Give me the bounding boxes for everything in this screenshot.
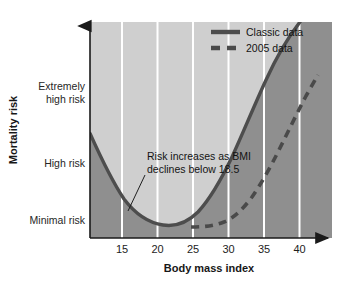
mortality-risk-bmi-chart: Risk increases as BMI declines below 18.… <box>0 0 339 284</box>
legend-label-2005-data: 2005 data <box>246 42 293 54</box>
y-axis-title: Mortality risk <box>7 95 19 164</box>
y-tick-label-extremely-high-risk-line2: high risk <box>46 93 86 105</box>
y-tick-label-high-risk: High risk <box>44 157 86 169</box>
x-tick-label-35: 35 <box>258 243 270 255</box>
y-tick-label-minimal-risk: Minimal risk <box>30 214 86 226</box>
chart-figure: Risk increases as BMI declines below 18.… <box>0 0 339 284</box>
annotation-line-1: Risk increases as BMI <box>147 150 251 162</box>
x-tick-label-15: 15 <box>116 243 128 255</box>
y-tick-label-extremely-high-risk-line1: Extremely <box>38 80 85 92</box>
x-tick-label-40: 40 <box>293 243 305 255</box>
x-tick-label-25: 25 <box>187 243 199 255</box>
x-axis-title: Body mass index <box>164 262 255 274</box>
x-tick-labels: 15 20 25 30 35 40 <box>116 243 306 255</box>
x-tick-label-20: 20 <box>151 243 163 255</box>
y-tick-labels: Extremely high risk High risk Minimal ri… <box>30 80 86 226</box>
legend-label-classic-data: Classic data <box>246 26 303 38</box>
annotation-line-2: declines below 18.5 <box>147 163 239 175</box>
x-tick-label-30: 30 <box>222 243 234 255</box>
